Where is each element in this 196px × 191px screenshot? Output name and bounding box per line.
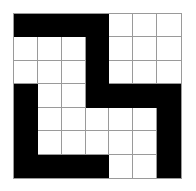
grid-cell-r6-c3[interactable] (86, 155, 110, 178)
grid-cell-r3-c5[interactable] (133, 84, 157, 107)
grid-cell-r5-c4[interactable] (109, 131, 133, 154)
grid-cell-r6-c1[interactable] (38, 155, 62, 178)
puzzle-grid (13, 13, 182, 179)
grid-cell-r1-c5[interactable] (133, 37, 157, 60)
grid-cell-r1-c0[interactable] (14, 37, 38, 60)
grid-cell-r2-c2[interactable] (62, 61, 86, 84)
grid-cell-r4-c0[interactable] (14, 108, 38, 131)
grid-cell-r4-c1[interactable] (38, 108, 62, 131)
grid-cell-r0-c5[interactable] (133, 14, 157, 37)
grid-cell-r3-c3[interactable] (86, 84, 110, 107)
grid-cell-r4-c6[interactable] (157, 108, 181, 131)
grid-cell-r2-c6[interactable] (157, 61, 181, 84)
grid-cell-r2-c3[interactable] (86, 61, 110, 84)
grid-cell-r3-c6[interactable] (157, 84, 181, 107)
grid-cell-r0-c2[interactable] (62, 14, 86, 37)
grid-cell-r4-c2[interactable] (62, 108, 86, 131)
grid-cell-r3-c4[interactable] (109, 84, 133, 107)
grid-cell-r0-c4[interactable] (109, 14, 133, 37)
grid-cell-r5-c2[interactable] (62, 131, 86, 154)
grid-cell-r4-c5[interactable] (133, 108, 157, 131)
grid-cell-r1-c2[interactable] (62, 37, 86, 60)
grid-cell-r3-c2[interactable] (62, 84, 86, 107)
grid-cell-r2-c0[interactable] (14, 61, 38, 84)
grid-cell-r6-c2[interactable] (62, 155, 86, 178)
grid-cell-r4-c3[interactable] (86, 108, 110, 131)
grid-cell-r3-c0[interactable] (14, 84, 38, 107)
grid-cell-r3-c1[interactable] (38, 84, 62, 107)
grid-cell-r0-c3[interactable] (86, 14, 110, 37)
grid-cell-r2-c4[interactable] (109, 61, 133, 84)
grid-cell-r2-c5[interactable] (133, 61, 157, 84)
grid-cell-r0-c1[interactable] (38, 14, 62, 37)
grid-cell-r0-c6[interactable] (157, 14, 181, 37)
grid-cell-r6-c5[interactable] (133, 155, 157, 178)
grid-cell-r2-c1[interactable] (38, 61, 62, 84)
grid-cell-r5-c1[interactable] (38, 131, 62, 154)
grid-cell-r5-c6[interactable] (157, 131, 181, 154)
grid-cell-r5-c0[interactable] (14, 131, 38, 154)
grid-cell-r1-c4[interactable] (109, 37, 133, 60)
grid-cell-r6-c6[interactable] (157, 155, 181, 178)
grid-cell-r6-c0[interactable] (14, 155, 38, 178)
grid-cell-r5-c3[interactable] (86, 131, 110, 154)
grid-cell-r6-c4[interactable] (109, 155, 133, 178)
grid-cell-r1-c3[interactable] (86, 37, 110, 60)
grid-cell-r5-c5[interactable] (133, 131, 157, 154)
grid-cell-r0-c0[interactable] (14, 14, 38, 37)
grid-cell-r1-c1[interactable] (38, 37, 62, 60)
grid-cell-r1-c6[interactable] (157, 37, 181, 60)
grid-cell-r4-c4[interactable] (109, 108, 133, 131)
